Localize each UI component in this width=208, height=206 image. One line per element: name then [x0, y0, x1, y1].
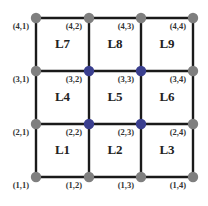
cell-label: L8	[107, 36, 123, 51]
cell-label: L9	[159, 36, 175, 51]
boundary-node	[31, 172, 41, 182]
boundary-node	[31, 119, 41, 129]
boundary-node	[84, 13, 94, 23]
cell-label: L3	[159, 142, 175, 157]
node-label: (3,3)	[118, 74, 134, 84]
cell-labels: L1L2L3L4L5L6L7L8L9	[55, 36, 175, 157]
interior-node	[136, 119, 146, 129]
boundary-node	[136, 172, 146, 182]
node-label: (2,4)	[170, 127, 186, 137]
node-label: (1,3)	[118, 180, 134, 190]
cell-label: L1	[55, 142, 70, 157]
interior-node	[84, 119, 94, 129]
interior-node	[84, 66, 94, 76]
boundary-node	[31, 66, 41, 76]
node-label: (4,4)	[170, 21, 186, 31]
cell-label: L2	[107, 142, 122, 157]
cell-label: L6	[159, 89, 175, 104]
boundary-node	[136, 13, 146, 23]
cell-label: L4	[55, 89, 71, 104]
node-label: (1,2)	[66, 180, 82, 190]
node-label: (3,1)	[13, 74, 29, 84]
node-label: (2,1)	[13, 127, 29, 137]
interior-node	[136, 66, 146, 76]
node-label: (2,3)	[118, 127, 134, 137]
boundary-node	[188, 66, 198, 76]
boundary-node	[31, 13, 41, 23]
grid-diagram: L1L2L3L4L5L6L7L8L9 (1,1)(1,2)(1,3)(1,4)(…	[0, 0, 208, 206]
boundary-node	[84, 172, 94, 182]
node-label: (3,2)	[66, 74, 82, 84]
node-label: (4,3)	[118, 21, 134, 31]
node-label: (1,1)	[13, 180, 29, 190]
cell-label: L5	[107, 89, 123, 104]
boundary-node	[188, 172, 198, 182]
node-label: (3,4)	[170, 74, 186, 84]
boundary-node	[188, 13, 198, 23]
node-label: (2,2)	[66, 127, 82, 137]
cell-label: L7	[55, 36, 71, 51]
boundary-node	[188, 119, 198, 129]
node-label: (4,1)	[13, 21, 29, 31]
node-label: (1,4)	[170, 180, 186, 190]
node-label: (4,2)	[66, 21, 82, 31]
